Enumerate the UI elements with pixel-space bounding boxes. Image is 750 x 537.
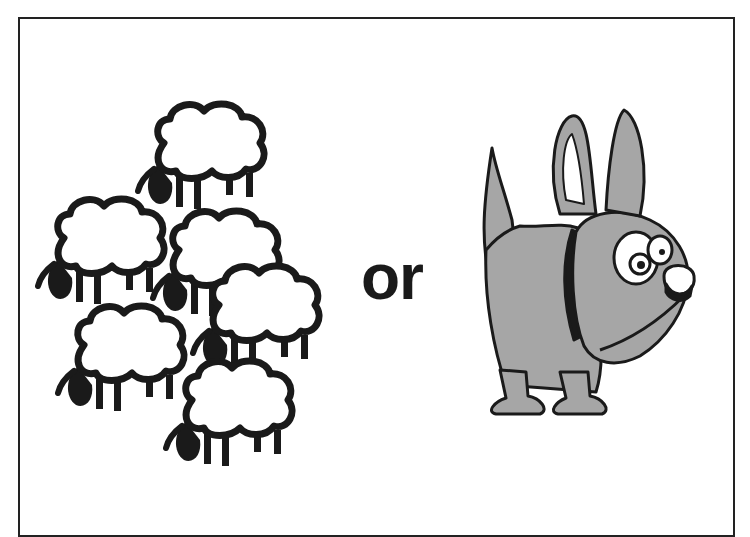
sheep-icon	[166, 361, 292, 466]
cartoon-dog-image	[484, 110, 694, 414]
or-label: or	[361, 245, 423, 309]
sheep-icon	[138, 104, 264, 209]
sheep-flock-image	[38, 104, 319, 466]
sheep-icon	[38, 199, 164, 304]
sheep-icon	[58, 306, 184, 411]
